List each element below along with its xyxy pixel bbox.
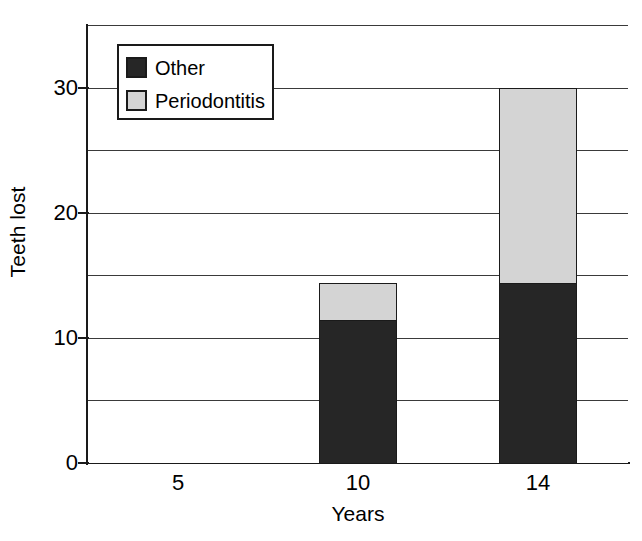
bar-group[interactable] — [319, 25, 397, 463]
y-axis-title-text: Teeth lost — [6, 186, 30, 277]
y-axis-tick-mark — [78, 87, 89, 89]
bar-segment-periodontitis[interactable] — [499, 88, 577, 284]
y-axis-tick-labels: 0102030 — [22, 0, 78, 541]
legend-item-other: Other — [126, 51, 266, 84]
y-axis-tick-mark — [78, 212, 89, 214]
legend-swatch-periodontitis — [126, 90, 147, 111]
bar-group[interactable] — [499, 25, 577, 463]
bar-segment-other[interactable] — [319, 320, 397, 464]
legend-item-periodontitis: Periodontitis — [126, 84, 266, 117]
y-axis-tick-label: 0 — [32, 452, 78, 474]
legend-label-other: Other — [155, 58, 205, 78]
legend-swatch-other — [126, 57, 147, 78]
y-axis-title: Teeth lost — [0, 0, 36, 463]
chart-figure: Teeth lost 0102030 Other Periodontitis 5… — [0, 0, 642, 541]
legend: Other Periodontitis — [117, 44, 274, 120]
y-axis-tick-mark — [78, 462, 89, 464]
x-axis-tick-label: 10 — [308, 470, 408, 496]
y-axis-tick-mark — [78, 337, 89, 339]
x-axis-title: Years — [88, 502, 628, 526]
y-axis-tick-label: 30 — [32, 77, 78, 99]
y-axis-tick-label: 10 — [32, 327, 78, 349]
bar-segment-periodontitis[interactable] — [319, 283, 397, 322]
x-axis-tick-label: 5 — [128, 470, 228, 496]
y-axis-tick-label: 20 — [32, 202, 78, 224]
legend-label-periodontitis: Periodontitis — [155, 91, 265, 111]
bar-segment-other[interactable] — [499, 283, 577, 464]
x-axis-tick-labels: 51014 — [88, 470, 628, 504]
x-axis-tick-label: 14 — [488, 470, 588, 496]
